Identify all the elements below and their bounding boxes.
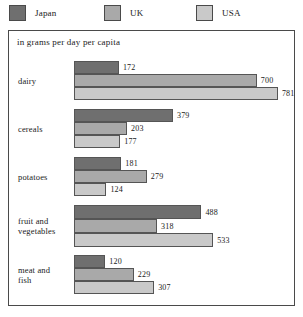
- bar-value-dairy-uk: 700: [261, 76, 274, 85]
- legend-label-japan: Japan: [35, 8, 57, 18]
- category-label-fruit-and-vegetables: fruit andvegetables: [18, 216, 76, 236]
- bar-row-potatoes-uk: 279: [74, 170, 163, 183]
- bar-group-potatoes: potatoes181279124: [9, 153, 294, 201]
- bar-row-dairy-usa: 781: [74, 87, 295, 100]
- bar-value-potatoes-japan: 181: [125, 159, 138, 168]
- legend-item-japan: Japan: [9, 5, 57, 21]
- bar-row-dairy-japan: 172: [74, 61, 295, 74]
- bar-potatoes-uk: [74, 170, 147, 183]
- chart-panel: in grams per day per capita dairy1727007…: [8, 30, 295, 306]
- bar-potatoes-usa: [74, 183, 106, 196]
- bar-value-fruit-and-vegetables-japan: 488: [205, 208, 218, 217]
- bar-row-dairy-uk: 700: [74, 74, 295, 87]
- category-label-dairy: dairy: [18, 76, 76, 86]
- legend-swatch-usa: [196, 5, 213, 21]
- legend-item-usa: USA: [196, 5, 241, 21]
- chart-plot-area: dairy172700781cereals379203177potatoes18…: [9, 57, 294, 305]
- bar-row-fruit-and-vegetables-usa: 533: [74, 233, 230, 247]
- bar-value-meat-and-fish-japan: 120: [109, 257, 122, 266]
- bar-fruit-and-vegetables-uk: [74, 219, 157, 233]
- bar-row-meat-and-fish-usa: 307: [74, 281, 171, 294]
- legend-item-uk: UK: [104, 5, 143, 21]
- bar-group-fruit-and-vegetables: fruit andvegetables488318533: [9, 201, 294, 251]
- bar-meat-and-fish-usa: [74, 281, 154, 294]
- bar-value-meat-and-fish-usa: 307: [158, 283, 171, 292]
- bar-dairy-usa: [74, 87, 278, 100]
- bar-value-dairy-japan: 172: [123, 63, 136, 72]
- bar-row-cereals-uk: 203: [74, 122, 190, 135]
- bar-value-potatoes-usa: 124: [110, 185, 123, 194]
- bar-fruit-and-vegetables-usa: [74, 233, 213, 247]
- legend-swatch-japan: [9, 5, 26, 21]
- bar-value-cereals-uk: 203: [131, 124, 144, 133]
- bar-fruit-and-vegetables-japan: [74, 205, 201, 219]
- legend-swatch-uk: [104, 5, 121, 21]
- category-label-cereals: cereals: [18, 124, 76, 134]
- bar-value-cereals-usa: 177: [124, 137, 137, 146]
- bar-cereals-usa: [74, 135, 120, 148]
- bar-value-fruit-and-vegetables-usa: 533: [217, 236, 230, 245]
- bar-row-cereals-japan: 379: [74, 109, 190, 122]
- chart-caption: in grams per day per capita: [17, 37, 120, 47]
- bar-potatoes-japan: [74, 157, 121, 170]
- bar-meat-and-fish-japan: [74, 255, 105, 268]
- bar-cereals-japan: [74, 109, 173, 122]
- bars-potatoes: 181279124: [74, 157, 163, 196]
- bar-row-fruit-and-vegetables-uk: 318: [74, 219, 230, 233]
- bars-meat-and-fish: 120229307: [74, 255, 171, 294]
- legend-label-usa: USA: [222, 8, 241, 18]
- bar-group-dairy: dairy172700781: [9, 57, 294, 105]
- bar-value-potatoes-uk: 279: [151, 172, 164, 181]
- bar-row-potatoes-japan: 181: [74, 157, 163, 170]
- bar-row-meat-and-fish-japan: 120: [74, 255, 171, 268]
- bar-row-meat-and-fish-uk: 229: [74, 268, 171, 281]
- bars-dairy: 172700781: [74, 61, 295, 100]
- bar-dairy-uk: [74, 74, 257, 87]
- bar-row-potatoes-usa: 124: [74, 183, 163, 196]
- bar-row-fruit-and-vegetables-japan: 488: [74, 205, 230, 219]
- bar-value-fruit-and-vegetables-uk: 318: [161, 222, 174, 231]
- bar-value-meat-and-fish-uk: 229: [138, 270, 151, 279]
- bar-dairy-japan: [74, 61, 119, 74]
- bar-value-cereals-japan: 379: [177, 111, 190, 120]
- legend-label-uk: UK: [130, 8, 143, 18]
- bar-group-meat-and-fish: meat andfish120229307: [9, 251, 294, 299]
- bars-cereals: 379203177: [74, 109, 190, 148]
- bar-group-cereals: cereals379203177: [9, 105, 294, 153]
- bars-fruit-and-vegetables: 488318533: [74, 205, 230, 247]
- bar-value-dairy-usa: 781: [282, 89, 295, 98]
- bar-meat-and-fish-uk: [74, 268, 134, 281]
- bar-row-cereals-usa: 177: [74, 135, 190, 148]
- category-label-meat-and-fish: meat andfish: [18, 265, 76, 285]
- chart-legend: Japan UK USA: [0, 0, 303, 28]
- bar-cereals-uk: [74, 122, 127, 135]
- category-label-potatoes: potatoes: [18, 172, 76, 182]
